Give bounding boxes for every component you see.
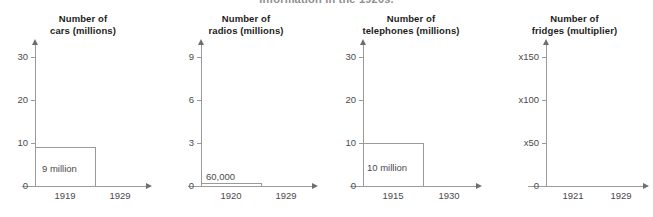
- y-tick-label-30: 30: [0, 51, 28, 62]
- y-tick-x50: [542, 143, 547, 144]
- chart-cars: Number of cars (millions) 0 10 20 30 9 m…: [0, 0, 166, 217]
- x-axis-arrow-icon: [643, 183, 649, 189]
- y-tick-20: [31, 100, 36, 101]
- plot-area-fridges: 0 x50 x100 x150 1921 1929: [496, 0, 653, 217]
- x-tick-label-1920: 1920: [204, 190, 258, 201]
- y-tick-0: [542, 186, 547, 187]
- y-tick-30: [31, 57, 36, 58]
- bar-radios-1920: [201, 183, 262, 187]
- x-tick-label-1929: 1929: [96, 190, 144, 201]
- y-tick-label-6: 6: [166, 94, 194, 105]
- y-axis-arrow-icon: [32, 39, 38, 45]
- bar-label-radios-1920: 60,000: [206, 171, 235, 182]
- y-tick-label-0: 0: [166, 180, 194, 191]
- y-tick-label-30: 30: [326, 51, 356, 62]
- x-tick-label-1930: 1930: [424, 190, 474, 201]
- chart-telephones: Number of telephones (millions) 0 10 20 …: [326, 0, 496, 217]
- x-tick-label-1929: 1929: [598, 190, 644, 201]
- y-tick-x100: [542, 100, 547, 101]
- chart-panel-group: Number of cars (millions) 0 10 20 30 9 m…: [0, 0, 653, 217]
- y-tick-label-0: 0: [0, 180, 28, 191]
- y-tick-label-20: 20: [326, 94, 356, 105]
- y-tick-label-0: 0: [326, 180, 356, 191]
- y-tick-label-x50: x50: [496, 137, 539, 148]
- plot-area-telephones: 0 10 20 30 10 million 1915 1930: [326, 0, 496, 217]
- x-tick-label-1929: 1929: [262, 190, 310, 201]
- y-tick-10: [31, 143, 36, 144]
- y-axis-arrow-icon: [543, 39, 549, 45]
- y-tick-label-3: 3: [166, 137, 194, 148]
- y-tick-9: [197, 57, 202, 58]
- y-axis-arrow-icon: [198, 39, 204, 45]
- y-axis-line: [201, 45, 202, 187]
- chart-radios: Number of radios (millions) 0 3 6 9 60,0…: [166, 0, 326, 217]
- y-tick-6: [197, 100, 202, 101]
- y-tick-label-20: 20: [0, 94, 28, 105]
- x-axis-arrow-icon: [476, 183, 482, 189]
- x-tick-label-1921: 1921: [548, 190, 598, 201]
- chart-fridges: Number of fridges (multiplier) 0 x50 x10…: [496, 0, 653, 217]
- y-axis-line: [546, 45, 547, 187]
- y-tick-label-10: 10: [326, 137, 356, 148]
- y-tick-20: [359, 100, 364, 101]
- y-tick-3: [197, 143, 202, 144]
- x-tick-label-1919: 1919: [38, 190, 92, 201]
- plot-area-radios: 0 3 6 9 60,000 1920 1929: [166, 0, 326, 217]
- y-tick-label-x150: x150: [496, 51, 539, 62]
- y-tick-label-x100: x100: [496, 94, 539, 105]
- x-axis-arrow-icon: [312, 183, 318, 189]
- bar-label-cars-1919: 9 million: [42, 163, 77, 174]
- y-tick-label-10: 10: [0, 137, 28, 148]
- x-tick-label-1915: 1915: [366, 190, 420, 201]
- y-axis-arrow-icon: [360, 39, 366, 45]
- x-axis-arrow-icon: [146, 183, 152, 189]
- y-tick-x150: [542, 57, 547, 58]
- plot-area-cars: 0 10 20 30 9 million 1919 1929: [0, 0, 166, 217]
- bar-label-telephones-1915: 10 million: [367, 162, 407, 173]
- y-tick-label-0: 0: [496, 180, 539, 191]
- y-tick-30: [359, 57, 364, 58]
- y-tick-label-9: 9: [166, 51, 194, 62]
